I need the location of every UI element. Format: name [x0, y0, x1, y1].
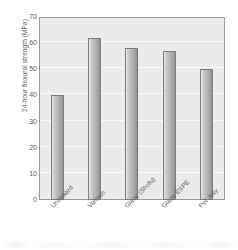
bar-pet-jelly [200, 69, 213, 200]
y-tick-label-60: 60 [15, 39, 37, 46]
y-tick-label-20: 20 [15, 144, 37, 151]
y-tick-label-0: 0 [15, 196, 37, 203]
y-tick-label-40: 40 [15, 91, 37, 98]
bar-slot [151, 17, 188, 200]
bar-chart-figure: 24-hour flexural strength (MPa) 01020304… [0, 0, 238, 250]
bar-slot [188, 17, 225, 200]
bars-layer [39, 17, 225, 200]
y-tick-label-70: 70 [15, 13, 37, 20]
bar-slot [39, 17, 76, 200]
bar-varnish [88, 38, 101, 200]
bar-slot [113, 17, 150, 200]
bar-glaze-shofu [125, 48, 138, 200]
bar-untreated [51, 95, 64, 200]
bar-slot [76, 17, 113, 200]
y-tick-label-30: 30 [15, 118, 37, 125]
page-bottom-text-fragment [0, 242, 238, 248]
y-tick-label-50: 50 [15, 65, 37, 72]
bar-glaze-espe [163, 51, 176, 200]
y-tick-label-10: 10 [15, 170, 37, 177]
